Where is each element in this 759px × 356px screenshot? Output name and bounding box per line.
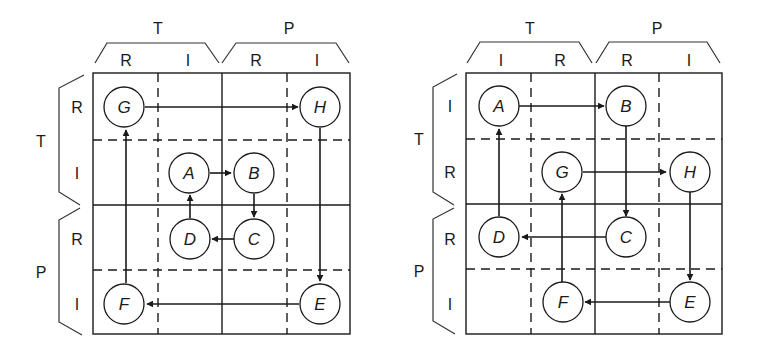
svg-text:G: G (117, 98, 130, 117)
svg-text:A: A (182, 164, 194, 183)
diagram-right: T P I R R I T P I R R I A B G H D C F (414, 20, 722, 335)
row-group-bracket-t (59, 75, 84, 205)
node-e: E (670, 282, 710, 322)
row-label: R (444, 231, 456, 248)
row-label: R (444, 164, 456, 181)
node-a: A (169, 153, 209, 193)
col-label: I (186, 52, 190, 69)
node-c: C (606, 217, 646, 257)
node-b: B (606, 86, 646, 126)
node-d: D (170, 219, 210, 259)
row-label: R (71, 231, 83, 248)
row-group-bracket-t (433, 74, 457, 205)
svg-text:A: A (492, 97, 504, 116)
row-group-bracket-p (59, 208, 82, 335)
col-group-label-t: T (153, 20, 163, 37)
col-group-bracket-t (467, 42, 592, 63)
col-group-label-p: P (652, 20, 663, 37)
col-label: R (120, 52, 132, 69)
node-h: H (670, 152, 710, 192)
col-label: R (621, 52, 633, 69)
row-group-label-t: T (414, 131, 424, 148)
node-g: G (542, 152, 582, 192)
node-b: B (234, 153, 274, 193)
row-group-label-p: P (414, 263, 425, 280)
row-group-label-t: T (36, 133, 46, 150)
col-group-bracket-t (95, 43, 219, 63)
col-label: I (687, 52, 691, 69)
row-label: I (75, 296, 79, 313)
row-label: I (448, 98, 452, 115)
svg-text:E: E (314, 295, 326, 314)
svg-text:B: B (248, 164, 259, 183)
row-label: I (75, 165, 79, 182)
row-group-bracket-p (433, 208, 455, 334)
svg-text:H: H (314, 98, 327, 117)
node-a: A (479, 86, 519, 126)
svg-text:H: H (684, 163, 697, 182)
svg-text:D: D (493, 228, 505, 247)
node-f: F (104, 284, 144, 324)
node-c: C (234, 219, 274, 259)
col-label: I (499, 52, 503, 69)
svg-text:G: G (555, 163, 568, 182)
row-label: I (448, 296, 452, 313)
col-group-bracket-p (596, 42, 720, 63)
col-label: R (554, 52, 566, 69)
svg-text:B: B (620, 97, 631, 116)
node-g: G (104, 87, 144, 127)
col-label: I (315, 52, 319, 69)
row-label: R (71, 99, 83, 116)
col-label: R (250, 52, 262, 69)
node-e: E (300, 284, 340, 324)
svg-text:E: E (684, 293, 696, 312)
node-f: F (543, 282, 583, 322)
col-group-label-p: P (284, 20, 295, 37)
node-h: H (300, 87, 340, 127)
svg-text:C: C (620, 228, 633, 247)
diagram-left: T P R I R I T P R I R I G H A B (36, 20, 350, 336)
svg-text:F: F (558, 293, 570, 312)
node-d: D (479, 217, 519, 257)
svg-text:D: D (184, 230, 196, 249)
svg-text:F: F (119, 295, 131, 314)
col-group-label-t: T (525, 20, 535, 37)
col-group-bracket-p (222, 43, 349, 63)
row-group-label-p: P (36, 264, 47, 281)
diagram-canvas: T P R I R I T P R I R I G H A B (0, 0, 759, 356)
svg-text:C: C (248, 230, 261, 249)
